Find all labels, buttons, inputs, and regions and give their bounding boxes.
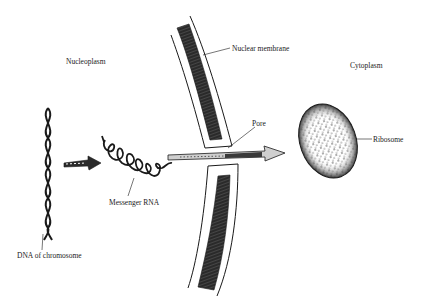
nuclear-membrane-upper xyxy=(171,16,232,148)
label-ribosome: Ribosome xyxy=(373,136,403,144)
leader-nuclear-membrane xyxy=(203,48,230,55)
label-nucleoplasm: Nucleoplasm xyxy=(66,58,106,66)
label-nuclear-membrane: Nuclear membrane xyxy=(232,45,289,53)
nuclear-membrane-lower xyxy=(188,164,238,296)
leader-pore xyxy=(228,127,255,148)
label-dna: DNA of chromosome xyxy=(17,252,82,260)
arrow-through-pore xyxy=(168,146,285,161)
label-pore: Pore xyxy=(252,120,266,128)
arrow-dna-to-rna xyxy=(64,156,101,170)
diagram-canvas: Nucleoplasm Nuclear membrane Cytoplasm P… xyxy=(0,0,421,308)
ribosome xyxy=(289,96,368,187)
dna-helix xyxy=(44,108,52,240)
label-messenger-rna: Messenger RNA xyxy=(109,199,159,207)
messenger-rna-coil xyxy=(102,136,172,176)
leader-dna xyxy=(42,234,43,250)
diagram-drawing xyxy=(0,0,421,308)
leader-messenger-rna xyxy=(128,178,134,196)
label-cytoplasm: Cytoplasm xyxy=(350,62,383,70)
